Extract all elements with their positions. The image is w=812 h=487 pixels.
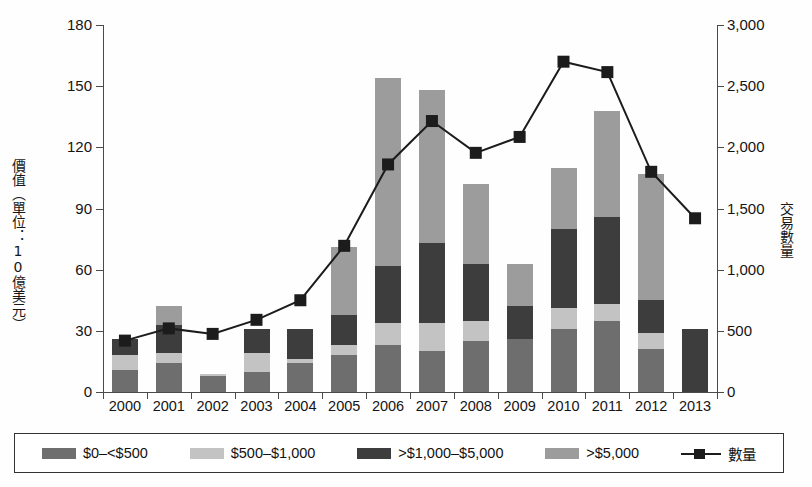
bar-column [375,25,401,392]
x-tick-label: 2001 [146,398,192,414]
bar-segment [244,353,270,371]
bar-segment [638,300,664,333]
y2-tick [717,392,724,393]
bar-segment [112,339,138,355]
y-tick-label: 0 [50,383,92,400]
bar-segment [551,168,577,229]
y-tick-label: 90 [50,200,92,217]
bar-segment [200,376,226,392]
bar-segment [682,329,708,392]
bar-segment [638,333,664,349]
x-tick-label: 2008 [453,398,499,414]
bar-column [156,25,182,392]
y2-tick-label: 1,000 [727,261,779,278]
y2-tick [717,86,724,87]
x-tick-label: 2005 [321,398,367,414]
bar-column [682,25,708,392]
x-tick-label: 2010 [541,398,587,414]
legend-swatch-icon [545,448,579,459]
y2-tick-label: 0 [727,383,779,400]
legend-label: $0–<$500 [83,445,148,461]
bar-segment [331,315,357,346]
chart-legend: $0–<$500$500–$1,000>$1,000–$5,000>$5,000… [14,433,784,473]
bar-segment [463,341,489,392]
legend-item[interactable]: >$1,000–$5,000 [357,445,503,461]
bar-segment [419,323,445,352]
bar-column [594,25,620,392]
y-tick-label: 120 [50,138,92,155]
bar-segment [244,372,270,392]
x-tick-label: 2003 [234,398,280,414]
y-tick [96,392,103,393]
bar-column [200,25,226,392]
legend-swatch-icon [357,448,391,459]
bar-column [331,25,357,392]
bar-segment [156,363,182,392]
plot-area [103,25,717,392]
secondary-y-axis-title: 交易數量 [778,140,793,320]
bar-segment [507,306,533,339]
legend-item[interactable]: $0–<$500 [42,445,148,461]
bar-segment [594,304,620,320]
y-tick [96,209,103,210]
bar-segment [287,363,313,392]
bar-segment [287,329,313,360]
x-tick-label: 2013 [672,398,718,414]
legend-label: 數量 [728,443,756,464]
x-tick-label: 2011 [584,398,630,414]
y-tick-label: 180 [50,16,92,33]
x-tick-label: 2012 [628,398,674,414]
y2-tick-label: 500 [727,322,779,339]
y2-tick [717,331,724,332]
bar-segment [244,329,270,353]
primary-y-axis-title: 價值（單位：10億美元） [10,120,25,370]
bar-segment [200,374,226,376]
bar-column [112,25,138,392]
bar-segment [375,266,401,323]
legend-swatch-icon [190,448,224,459]
legend-label: $500–$1,000 [231,445,316,461]
y-tick [96,270,103,271]
bar-column [638,25,664,392]
legend-item[interactable]: >$5,000 [545,445,639,461]
y2-tick-label: 1,500 [727,200,779,217]
x-tick-label: 2002 [190,398,236,414]
bar-column [244,25,270,392]
legend-label: >$1,000–$5,000 [398,445,503,461]
legend-line-marker-icon [681,448,721,459]
x-tick-label: 2000 [102,398,148,414]
bar-segment [156,353,182,363]
bar-segment [112,355,138,369]
legend-label: >$5,000 [586,445,639,461]
bar-segment [287,359,313,363]
bar-segment [551,329,577,392]
y2-tick [717,147,724,148]
bar-column [507,25,533,392]
legend-item[interactable]: $500–$1,000 [190,445,316,461]
y-tick [96,147,103,148]
y2-tick [717,209,724,210]
bar-segment [419,90,445,243]
y-tick [96,331,103,332]
x-tick-label: 2006 [365,398,411,414]
legend-item[interactable]: 數量 [681,443,756,464]
bar-segment [331,355,357,392]
primary-y-axis-line [103,25,104,393]
y-tick [96,86,103,87]
bar-segment [638,349,664,392]
bar-segment [507,339,533,392]
bar-segment [156,325,182,354]
y2-tick-label: 2,000 [727,138,779,155]
bar-segment [551,229,577,309]
bar-segment [156,306,182,324]
bar-segment [112,370,138,392]
legend-swatch-icon [42,448,76,459]
bar-segment [594,111,620,217]
y2-tick [717,25,724,26]
bar-segment [375,345,401,392]
y-tick-label: 150 [50,77,92,94]
bar-segment [507,264,533,307]
bar-segment [551,308,577,328]
bar-segment [594,321,620,392]
bar-segment [638,174,664,300]
